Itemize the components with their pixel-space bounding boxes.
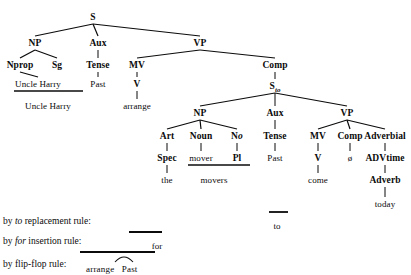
tree-node-comp1: Comp	[262, 60, 287, 70]
tree-node-today: today	[375, 199, 396, 209]
tree-node-the: the	[161, 175, 172, 185]
flip-flop-left-term: arrange	[86, 264, 114, 274]
tree-edge-np2-no	[200, 120, 237, 129]
tree-edge-vp2-mv2	[318, 120, 347, 129]
tree-node-past1: Past	[90, 79, 105, 89]
node-label-italic: o	[238, 131, 243, 141]
tree-node-comp2: Comp	[337, 131, 362, 141]
node-label: ø	[348, 153, 353, 163]
tree-edge-vp1-mv1	[137, 50, 200, 58]
rule-label-flip-flop: by flip-flop rule:	[3, 259, 66, 270]
node-label: arrange	[123, 101, 151, 111]
tree-edge-s-vp1	[93, 24, 200, 36]
node-label: Tense	[86, 60, 109, 70]
tree-edge-np1-nprop	[20, 50, 35, 58]
node-label: Pl	[233, 153, 242, 163]
node-label: ADVtime	[365, 153, 404, 163]
node-label: Uncle Harry	[15, 79, 61, 89]
rule-bar-layer	[80, 212, 288, 252]
node-label: Aux	[89, 38, 106, 48]
node-label: Noun	[190, 131, 213, 141]
tree-node-adverb: Adverb	[369, 175, 400, 185]
tree-node-arrange: arrange	[123, 101, 151, 111]
tree-edge-s-np1	[35, 24, 93, 36]
tree-node-sg: Sg	[52, 60, 62, 70]
flip-flop-arc-layer	[115, 257, 133, 262]
tree-node-aux2: Aux	[266, 108, 283, 118]
tree-node-s: S	[90, 12, 95, 22]
node-label: VP	[341, 108, 354, 118]
tree-node-mover: mover	[189, 153, 213, 163]
tree-edge-sto-vp2	[275, 93, 347, 106]
flip-flop-right-term: Past	[122, 264, 138, 274]
node-label: Comp	[262, 60, 287, 70]
tree-edge-nprop-uncleharry1	[20, 72, 38, 77]
rule-label-suffix: replacement rule:	[22, 216, 91, 226]
tree-node-no: No	[231, 131, 243, 141]
tree-node-v2: V	[315, 153, 322, 163]
tree-node-vp1: VP	[194, 38, 207, 48]
tree-node-adverbial: Adverbial	[364, 131, 406, 141]
node-label: V	[315, 153, 322, 163]
rule-label-for-insertion: by for insertion rule:	[3, 236, 81, 247]
tree-edge-s-aux1	[93, 24, 98, 36]
tree-edge-vp2-comp2	[347, 120, 350, 129]
node-label: NP	[194, 108, 207, 118]
tree-node-np2: NP	[194, 108, 207, 118]
node-label: the	[161, 175, 172, 185]
tree-node-vp2: VP	[341, 108, 354, 118]
node-label: Art	[160, 131, 175, 141]
tree-node-uncleharry1: Uncle Harry	[15, 79, 61, 89]
tree-node-advtime: ADVtime	[365, 153, 404, 163]
tree-edge-np1-sg	[35, 50, 57, 58]
flip-flop-arc	[115, 257, 133, 262]
node-label: come	[308, 175, 328, 185]
node-label: today	[375, 199, 396, 209]
tree-node-past2: Past	[267, 153, 282, 163]
rule-output-for-insertion: for	[152, 241, 163, 251]
tree-node-np1: NP	[29, 38, 42, 48]
tree-node-mv2: MV	[310, 131, 326, 141]
tree-node-mv1: MV	[129, 60, 145, 70]
rule-label-prefix: by	[3, 236, 15, 246]
rule-output-to-replacement: to	[273, 221, 280, 231]
tree-node-noun: Noun	[190, 131, 213, 141]
tree-node-aux1: Aux	[89, 38, 106, 48]
rule-label-suffix: insertion rule:	[26, 236, 81, 246]
node-label: Sg	[52, 60, 62, 70]
tree-node-v1: V	[134, 79, 141, 89]
tree-node-art: Art	[160, 131, 175, 141]
rule-label-prefix: by	[3, 216, 15, 226]
node-label: Past	[267, 153, 282, 163]
node-label: V	[134, 79, 141, 89]
tree-node-movers: movers	[200, 175, 227, 185]
tree-edge-sto-np2	[200, 93, 275, 106]
tree-edge-np2-art	[167, 120, 200, 129]
node-label: movers	[200, 175, 227, 185]
flip-flop-gap	[114, 264, 121, 274]
node-label: S	[90, 12, 95, 22]
rule-label-keyword: for	[15, 236, 26, 246]
rule-output-flip-flop: arrange Past	[86, 264, 138, 274]
node-label: Uncle Harry	[25, 101, 71, 111]
node-subscript: to	[275, 86, 280, 94]
node-label: VP	[194, 38, 207, 48]
rule-label-prefix: by flip-flop rule:	[3, 259, 66, 269]
node-label: N	[231, 131, 238, 141]
node-label: Comp	[337, 131, 362, 141]
tree-edge-vp2-adverbial	[347, 120, 385, 129]
node-label: Spec	[157, 153, 176, 163]
tree-node-uncleharry2: Uncle Harry	[25, 101, 71, 111]
node-label: Nprop	[7, 60, 34, 70]
tree-edge-vp1-comp1	[200, 50, 275, 58]
node-label: Past	[90, 79, 105, 89]
tree-node-tense1: Tense	[86, 60, 109, 70]
node-label: NP	[29, 38, 42, 48]
tree-edge-np2-noun	[200, 120, 201, 129]
tree-node-pl: Pl	[233, 153, 242, 163]
tree-node-spec: Spec	[157, 153, 176, 163]
tree-node-come: come	[308, 175, 328, 185]
node-label: Adverbial	[364, 131, 406, 141]
node-label: Adverb	[369, 175, 400, 185]
tree-node-tense2: Tense	[263, 131, 286, 141]
